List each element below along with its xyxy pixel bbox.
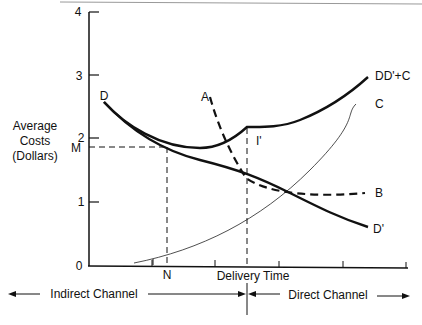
i-label: I'	[256, 134, 262, 148]
d-label: D	[100, 89, 109, 103]
y-label-3: (Dollars)	[12, 149, 57, 163]
indirect-channel-label: Indirect Channel	[50, 287, 137, 301]
series-ddc	[104, 77, 368, 148]
y-tick-3: 3	[76, 69, 83, 83]
top-border	[60, 2, 422, 4]
c-label: C	[375, 97, 384, 111]
y-label-2: Costs	[20, 134, 51, 148]
arrow-right-icon	[402, 293, 410, 299]
b-label: B	[375, 186, 383, 200]
direct-channel-label: Direct Channel	[288, 288, 367, 302]
series-ab	[210, 97, 365, 195]
y-tick-1: 1	[78, 195, 85, 209]
chart: 4 3 2 1 0 M Average Costs (Dollars) N De…	[0, 0, 422, 325]
series-d	[104, 102, 368, 227]
y-tick-0: 0	[76, 259, 83, 273]
y-tick-4: 4	[75, 5, 82, 19]
x-label: Delivery Time	[217, 269, 290, 283]
arrow-left-icon	[8, 291, 16, 297]
x-axis	[88, 266, 408, 268]
m-label: M	[71, 141, 81, 155]
y-label-1: Average	[13, 119, 58, 133]
a-label: A	[201, 90, 209, 104]
ddc-label: DD'+C	[375, 69, 411, 83]
n-label: N	[163, 268, 172, 282]
arrow-right-icon	[238, 291, 246, 297]
d-prime-label: D'	[373, 222, 384, 236]
